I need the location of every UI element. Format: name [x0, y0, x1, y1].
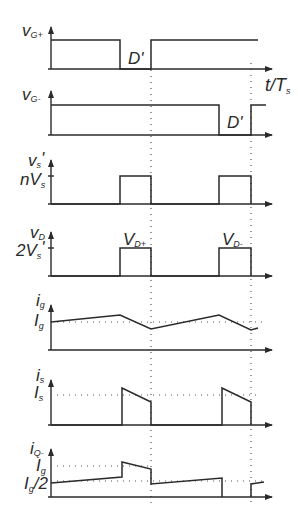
svg-text:Ig: Ig [36, 456, 46, 476]
duty-cycle-label: D' [128, 49, 144, 68]
svg-text:Is: Is [34, 383, 44, 403]
waveform-diagram: vG+ D' t/Ts vG- D' vs' nVs vD 2Vs' VD+ V… [0, 0, 298, 524]
svg-text:nVs: nVs [20, 170, 46, 190]
panel-vg-minus: vG- D' [22, 85, 272, 135]
panel-iq-minus: iQ- Ig Ig/2 [24, 439, 272, 497]
svg-text:Ig: Ig [34, 311, 44, 331]
svg-text:vG+: vG+ [22, 21, 43, 40]
svg-text:vs': vs' [28, 149, 45, 170]
duty-cycle-label: D' [227, 113, 243, 132]
svg-text:VD+: VD+ [123, 230, 146, 249]
svg-text:Ig/2: Ig/2 [24, 474, 48, 494]
svg-text:VD-: VD- [222, 230, 243, 249]
svg-text:ig: ig [36, 291, 45, 310]
panel-vg-plus: vG+ D' [22, 21, 272, 69]
panel-ig: ig Ig [34, 291, 272, 350]
panel-is: is Is [34, 366, 272, 425]
panel-vd: vD 2Vs' VD+ VD- [15, 223, 272, 276]
svg-text:vG-: vG- [22, 85, 41, 104]
time-axis-label: t/Ts [265, 75, 291, 96]
panel-vs-prime: vs' nVs [20, 149, 272, 204]
svg-text:2Vs': 2Vs' [15, 238, 45, 261]
